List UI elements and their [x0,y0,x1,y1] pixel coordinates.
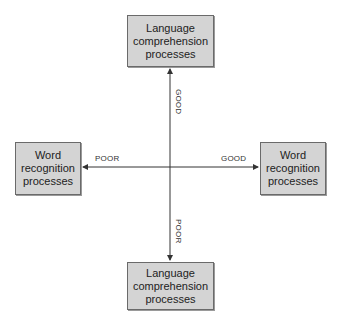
top-box-label: Language comprehension processes [133,22,208,61]
left-axis-label: POOR [95,154,119,163]
top-language-comprehension-box: Language comprehension processes [127,15,214,67]
left-word-recognition-box: Word recognition processes [15,142,81,195]
up-axis-label: GOOD [174,89,183,114]
diagram-canvas: Language comprehension processes Word re… [0,0,343,324]
right-axis-label: GOOD [221,154,246,163]
right-box-label: Word recognition processes [266,149,320,188]
right-word-recognition-box: Word recognition processes [260,142,326,195]
bottom-language-comprehension-box: Language comprehension processes [127,262,214,310]
left-box-label: Word recognition processes [21,149,75,188]
bottom-box-label: Language comprehension processes [133,267,208,306]
down-axis-label: POOR [174,219,183,243]
